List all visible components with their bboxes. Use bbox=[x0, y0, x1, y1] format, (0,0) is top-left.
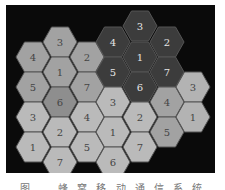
cell-number-label: 1 bbox=[190, 112, 196, 123]
cell-number-label: 4 bbox=[84, 112, 90, 123]
cell-number-label: 5 bbox=[164, 127, 170, 138]
hex-cell: 3 bbox=[16, 102, 50, 132]
cell-number-label: 6 bbox=[110, 157, 116, 168]
cell-number-label: 2 bbox=[57, 127, 63, 138]
hex-cell: 1 bbox=[16, 132, 50, 162]
cell-number-label: 1 bbox=[137, 52, 143, 63]
hex-cell: 6 bbox=[43, 87, 77, 117]
figure-caption: 图 … 蜂 窝 移 动 通 信 系 统 bbox=[0, 180, 225, 190]
hex-cell: 5 bbox=[16, 72, 50, 102]
cell-number-label: 7 bbox=[137, 142, 143, 153]
hex-cell: 6 bbox=[123, 72, 157, 102]
cell-number-label: 3 bbox=[190, 82, 196, 93]
cell-number-label: 3 bbox=[137, 21, 143, 32]
cell-number-label: 5 bbox=[110, 67, 116, 78]
cell-number-label: 5 bbox=[84, 142, 90, 153]
hex-cell: 2 bbox=[43, 117, 77, 147]
hex-cell: 3 bbox=[123, 11, 157, 41]
cell-number-label: 7 bbox=[57, 157, 63, 168]
hex-cell: 1 bbox=[123, 42, 157, 72]
hex-cell: 7 bbox=[123, 132, 157, 162]
cell-number-label: 1 bbox=[30, 142, 36, 153]
hex-cell: 4 bbox=[16, 42, 50, 72]
cell-number-label: 7 bbox=[84, 82, 90, 93]
cell-number-label: 3 bbox=[110, 97, 116, 108]
cell-number-label: 2 bbox=[84, 52, 90, 63]
cell-number-label: 4 bbox=[110, 37, 116, 48]
cell-number-label: 1 bbox=[110, 127, 116, 138]
cell-number-label: 6 bbox=[137, 82, 143, 93]
hexagon-cell-grid: 34215763421576342157321764531 bbox=[0, 0, 225, 190]
hex-cell: 3 bbox=[43, 27, 77, 57]
cell-number-label: 5 bbox=[30, 82, 36, 93]
cell-number-label: 2 bbox=[137, 112, 143, 123]
cell-number-label: 7 bbox=[164, 67, 170, 78]
hex-cell: 2 bbox=[123, 102, 157, 132]
cell-number-label: 3 bbox=[30, 112, 36, 123]
cell-number-label: 1 bbox=[57, 67, 63, 78]
hex-cell: 7 bbox=[43, 147, 77, 177]
hex-cell: 2 bbox=[150, 27, 184, 57]
cell-number-label: 4 bbox=[164, 97, 170, 108]
cell-number-label: 3 bbox=[57, 37, 63, 48]
cell-number-label: 4 bbox=[30, 52, 36, 63]
hex-cell: 1 bbox=[43, 57, 77, 87]
cell-number-label: 2 bbox=[164, 37, 170, 48]
cell-number-label: 6 bbox=[57, 97, 63, 108]
